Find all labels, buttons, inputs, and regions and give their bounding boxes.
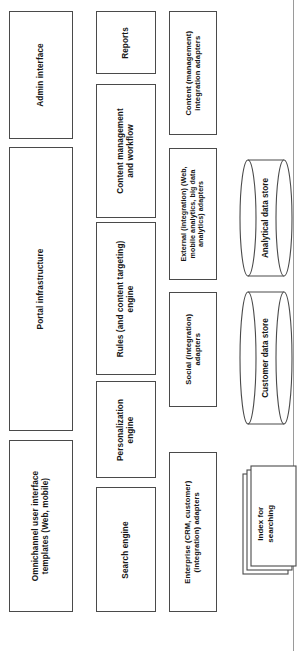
node-label: Content (management)integration adapters <box>184 31 203 116</box>
node-personalization-engine[interactable]: Personalizationengine <box>96 381 156 478</box>
node-label: Social (integration)adapters <box>184 314 203 385</box>
node-label: Index forsearching <box>256 505 276 543</box>
node-portal-infrastructure[interactable]: Portal infrastructure <box>9 147 73 431</box>
node-label: Analytical data store <box>261 178 271 258</box>
node-label: Reports <box>121 27 131 59</box>
node-admin-interface[interactable]: Admin interface <box>9 11 73 139</box>
node-label: Omnichannel user interfacetemplates (Web… <box>31 471 51 581</box>
node-omnichannel-templates[interactable]: Omnichannel user interfacetemplates (Web… <box>9 440 73 612</box>
node-content-management-workflow[interactable]: Content managementand workflow <box>96 84 156 218</box>
node-content-integration-adapters[interactable]: Content (management)integration adapters <box>169 11 217 135</box>
node-label: External (integration) (Web,mobile analy… <box>180 166 206 261</box>
node-reports[interactable]: Reports <box>96 11 156 74</box>
node-index-for-searching[interactable]: Index forsearching <box>240 470 292 578</box>
node-analytical-data-store[interactable]: Analytical data store <box>240 158 292 278</box>
node-label: Content managementand workflow <box>116 108 136 194</box>
node-label: Rules (and content targeting)engine <box>116 240 136 357</box>
node-label: Portal infrastructure <box>36 249 46 330</box>
node-rules-engine[interactable]: Rules (and content targeting)engine <box>96 222 156 375</box>
node-label: Customer data store <box>261 318 271 398</box>
node-label: Admin interface <box>36 43 46 106</box>
node-label: Search engine <box>121 521 131 578</box>
node-label: Enterprise (CRM, customer)(integration) … <box>184 480 203 583</box>
node-customer-data-store[interactable]: Customer data store <box>240 290 292 426</box>
node-enterprise-integration-adapters[interactable]: Enterprise (CRM, customer)(integration) … <box>169 452 217 612</box>
node-social-integration-adapters[interactable]: Social (integration)adapters <box>169 292 217 407</box>
node-search-engine[interactable]: Search engine <box>96 487 156 612</box>
node-external-integration-adapters[interactable]: External (integration) (Web,mobile analy… <box>169 148 217 280</box>
diagram-canvas: Admin interface Portal infrastructure Om… <box>0 0 302 651</box>
node-label: Personalizationengine <box>116 398 136 460</box>
